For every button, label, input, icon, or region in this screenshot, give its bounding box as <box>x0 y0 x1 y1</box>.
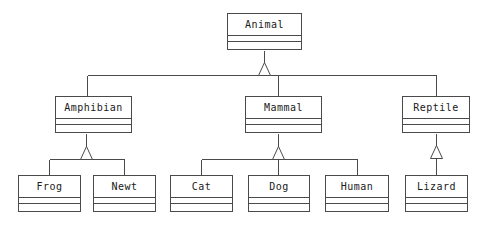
uml-method-compartment-reptile <box>403 125 469 132</box>
uml-name-compartment-lizard: Lizard <box>406 176 467 198</box>
uml-name-compartment-human: Human <box>326 176 388 198</box>
uml-class-name-reptile: Reptile <box>413 103 459 113</box>
uml-name-compartment-frog: Frog <box>19 176 80 198</box>
generalization-triangle-reptile <box>431 146 443 159</box>
generalization-triangle-mammal <box>273 147 285 160</box>
uml-class-name-cat: Cat <box>192 182 212 192</box>
uml-class-name-mammal: Mammal <box>264 103 303 113</box>
uml-method-compartment-human <box>326 204 388 211</box>
uml-name-compartment-animal: Animal <box>228 14 301 36</box>
uml-method-compartment-animal <box>228 42 301 49</box>
uml-method-compartment-dog <box>249 204 309 211</box>
uml-class-amphibian[interactable]: Amphibian <box>55 96 132 133</box>
uml-method-compartment-lizard <box>406 204 467 211</box>
uml-method-compartment-newt <box>94 204 155 211</box>
uml-class-name-human: Human <box>341 182 374 192</box>
uml-class-reptile[interactable]: Reptile <box>402 96 470 133</box>
uml-name-compartment-mammal: Mammal <box>246 97 321 119</box>
uml-name-compartment-dog: Dog <box>249 176 309 198</box>
uml-name-compartment-newt: Newt <box>94 176 155 198</box>
uml-name-compartment-reptile: Reptile <box>403 97 469 119</box>
uml-method-compartment-frog <box>19 204 80 211</box>
uml-class-lizard[interactable]: Lizard <box>405 175 468 212</box>
uml-class-name-frog: Frog <box>36 182 62 192</box>
uml-class-name-lizard: Lizard <box>417 182 456 192</box>
uml-class-newt[interactable]: Newt <box>93 175 156 212</box>
uml-class-name-animal: Animal <box>245 20 284 30</box>
uml-class-cat[interactable]: Cat <box>170 175 233 212</box>
generalization-triangle-animal <box>259 63 271 76</box>
uml-method-compartment-mammal <box>246 125 321 132</box>
uml-class-frog[interactable]: Frog <box>18 175 81 212</box>
generalization-triangle-amphibian <box>81 147 93 160</box>
uml-class-name-amphibian: Amphibian <box>64 103 123 113</box>
uml-class-dog[interactable]: Dog <box>248 175 310 212</box>
uml-class-animal[interactable]: Animal <box>227 13 302 50</box>
uml-class-name-dog: Dog <box>269 182 289 192</box>
uml-name-compartment-amphibian: Amphibian <box>56 97 131 119</box>
uml-class-name-newt: Newt <box>111 182 137 192</box>
uml-method-compartment-amphibian <box>56 125 131 132</box>
uml-class-human[interactable]: Human <box>325 175 389 212</box>
uml-class-mammal[interactable]: Mammal <box>245 96 322 133</box>
uml-method-compartment-cat <box>171 204 232 211</box>
uml-name-compartment-cat: Cat <box>171 176 232 198</box>
uml-class-diagram: Animal Amphibian Mammal Reptile Frog <box>0 0 482 225</box>
